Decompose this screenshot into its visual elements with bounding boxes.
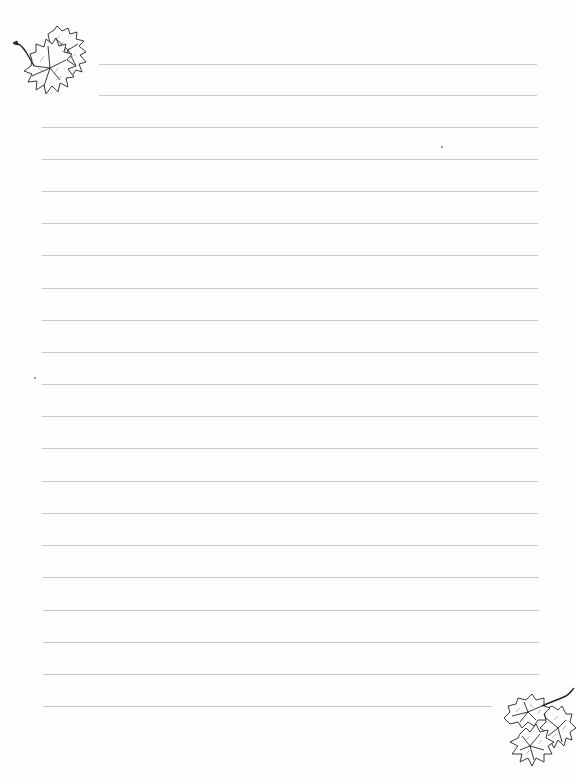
ruled-line [99,95,537,96]
ruled-line [43,674,539,675]
ruled-line [42,416,538,417]
ruled-line [42,320,538,321]
maple-leaf-icon [10,22,92,106]
lined-paper-page [0,0,577,782]
ruled-line [99,64,537,65]
ruled-line [42,481,538,482]
ruled-line [42,513,538,514]
ruled-line [42,545,538,546]
ruled-line [42,159,538,160]
ruled-line [43,706,492,707]
ruled-line [42,255,538,256]
ruled-line [42,448,538,449]
maple-leaf-icon [500,680,576,776]
ruled-line [43,642,539,643]
ruled-line [42,127,538,128]
ruled-line [42,288,538,289]
ruled-line [42,223,538,224]
scan-speck [34,377,36,379]
scan-speck [441,146,443,148]
ruled-line [42,191,538,192]
ruled-line [43,610,539,611]
ruled-line [42,384,538,385]
ruled-line [43,577,539,578]
ruled-line [42,352,538,353]
